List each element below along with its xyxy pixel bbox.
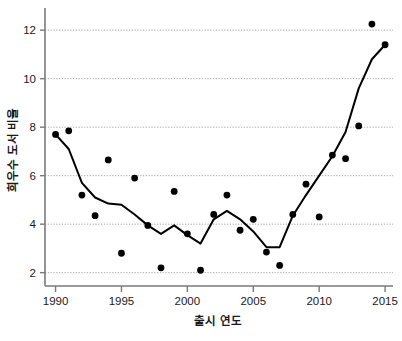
x-tick-label: 2015 xyxy=(372,295,398,307)
data-point xyxy=(263,249,270,256)
data-point xyxy=(171,188,178,195)
y-tick-label: 2 xyxy=(30,267,36,279)
y-axis-title: 희우수 도서 비율 xyxy=(6,108,19,191)
data-point xyxy=(289,211,296,218)
data-point xyxy=(237,227,244,234)
chart-plot-area: 24681012199019952000200520102015 출시 연도 희… xyxy=(0,0,402,341)
data-point xyxy=(144,222,151,229)
x-tick-label: 2010 xyxy=(306,295,332,307)
tick-marks-group xyxy=(40,30,385,292)
data-point xyxy=(92,212,99,219)
data-point xyxy=(105,157,112,164)
x-tick-label: 2005 xyxy=(240,295,266,307)
gridlines-group xyxy=(45,30,393,272)
x-tick-label: 1990 xyxy=(43,295,69,307)
data-point xyxy=(52,131,59,138)
data-point xyxy=(79,192,86,199)
data-point xyxy=(382,41,389,48)
y-tick-label: 10 xyxy=(23,73,36,85)
data-point xyxy=(131,175,138,182)
x-axis-title: 출시 연도 xyxy=(194,314,241,327)
data-point xyxy=(342,155,349,162)
trend-line-group xyxy=(56,45,386,247)
data-point xyxy=(316,213,323,220)
y-tick-label: 6 xyxy=(30,170,36,182)
data-point xyxy=(65,127,72,134)
data-point xyxy=(158,264,165,271)
data-point xyxy=(369,21,376,28)
chart-figure: 24681012199019952000200520102015 출시 연도 희… xyxy=(0,0,402,341)
x-tick-label: 2000 xyxy=(175,295,201,307)
data-point xyxy=(118,250,125,257)
axes-group xyxy=(45,8,393,286)
data-point xyxy=(250,216,257,223)
y-tick-label: 4 xyxy=(30,218,37,230)
data-point xyxy=(329,152,336,159)
data-point xyxy=(276,262,283,269)
tick-labels-group: 24681012199019952000200520102015 xyxy=(23,24,398,307)
data-point xyxy=(303,181,310,188)
data-point xyxy=(210,211,217,218)
data-point xyxy=(184,230,191,237)
trend-line xyxy=(56,45,386,247)
data-point xyxy=(355,123,362,130)
data-point xyxy=(224,192,231,199)
y-tick-label: 8 xyxy=(30,121,36,133)
y-tick-label: 12 xyxy=(23,24,36,36)
x-tick-label: 1995 xyxy=(109,295,135,307)
data-point xyxy=(197,267,204,274)
